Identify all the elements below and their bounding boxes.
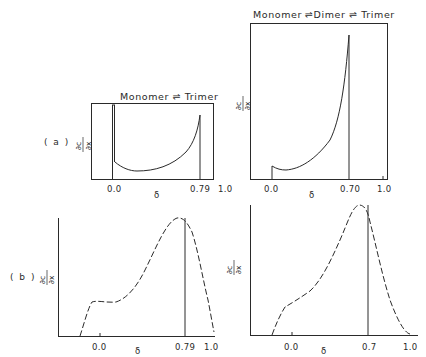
y-axis-label: ∂c ∂x (74, 137, 93, 152)
svg-text:∂x: ∂x (243, 101, 252, 110)
tick-label: 1.0 (403, 342, 417, 352)
x-axis-label: δ (321, 346, 327, 356)
y-axis-label: ∂c ∂x (234, 96, 252, 111)
panel-a-right: Monomer ⇌Dimer ⇌ Trimer 0.0 δ 0.70 1.0 ∂… (234, 9, 395, 200)
svg-text:∂c: ∂c (225, 266, 234, 274)
data-curve (272, 35, 349, 179)
tick-label: 0.79 (175, 342, 195, 352)
panel-b-left: 0.0 δ 0.79 1.0 ∂c ∂x ( b ) (10, 218, 218, 356)
tick-label: 0.0 (107, 184, 121, 194)
svg-text:∂c: ∂c (74, 142, 83, 150)
panel-a-left-title: Monomer ⇌ Trimer (120, 91, 218, 102)
figure-canvas: Monomer ⇌ Trimer 0.0 δ 0.79 1.0 ∂c ∂x ( … (0, 0, 426, 357)
svg-text:∂x: ∂x (84, 141, 93, 150)
tick-label: 0.79 (190, 184, 210, 194)
panel-a-right-title-right: ⇌Dimer ⇌ Trimer (305, 9, 395, 20)
tick-label: 1.0 (377, 184, 391, 194)
panel-a-right-title-left: Monomer (253, 9, 302, 20)
data-curve-dashed (80, 218, 214, 336)
y-axis-label: ∂c ∂x (38, 270, 56, 285)
svg-text:∂x: ∂x (234, 265, 243, 274)
svg-text:∂x: ∂x (47, 275, 56, 284)
panel-a-left: Monomer ⇌ Trimer 0.0 δ 0.79 1.0 ∂c ∂x ( … (44, 91, 232, 200)
data-curve-dashed (272, 205, 410, 335)
x-axis-label: δ (309, 190, 315, 200)
tick-label: 0.0 (92, 342, 106, 352)
data-curve (115, 115, 200, 171)
tick-label: 1.0 (218, 184, 232, 194)
x-axis-label: δ (154, 190, 160, 200)
plot-frame (251, 24, 388, 180)
plot-frame (92, 104, 214, 180)
panel-b-right: 0.0 δ 0.7 1.0 ∂c ∂x (225, 205, 418, 356)
svg-text:∂c: ∂c (234, 102, 243, 110)
x-axis-label: δ (135, 346, 141, 356)
tick-label: 0.7 (362, 342, 376, 352)
row-label-b: ( b ) (10, 272, 36, 282)
y-axis-label: ∂c ∂x (225, 260, 243, 275)
svg-text:∂c: ∂c (38, 276, 47, 284)
tick-label: 0.0 (284, 342, 298, 352)
row-label-a: ( a ) (44, 137, 70, 147)
tick-label: 0.0 (264, 184, 278, 194)
tick-label: 0.70 (340, 184, 360, 194)
tick-label: 1.0 (204, 342, 218, 352)
